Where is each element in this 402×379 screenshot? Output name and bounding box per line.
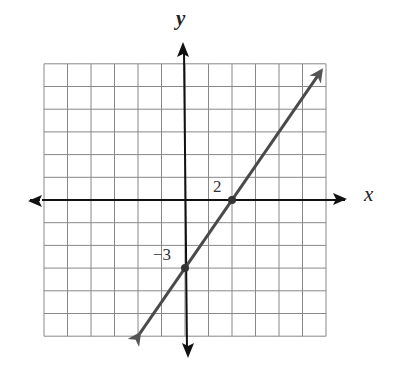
y-intercept-label: −3	[153, 245, 171, 265]
x-axis	[28, 193, 347, 207]
y-axis-label: y	[176, 6, 185, 31]
y-axis-down-arrow-icon	[182, 343, 194, 358]
plotted-line	[140, 71, 322, 334]
x-axis-label: x	[364, 182, 373, 207]
coordinate-plane	[0, 0, 402, 379]
point-marker	[228, 196, 236, 204]
y-axis-up-arrow-icon	[177, 42, 189, 57]
x-intercept-label: 2	[213, 177, 222, 197]
point-marker	[181, 264, 189, 272]
